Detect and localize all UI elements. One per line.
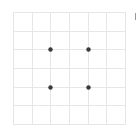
grid-svg [13,12,126,125]
grid-dot[interactable] [86,47,90,51]
grid-dot[interactable] [48,47,52,51]
game-stage [0,0,137,138]
clipped-edge-element [135,13,136,20]
grid-dot[interactable] [86,85,90,89]
grid-dot[interactable] [48,85,52,89]
dot-grid-board[interactable] [13,12,125,124]
